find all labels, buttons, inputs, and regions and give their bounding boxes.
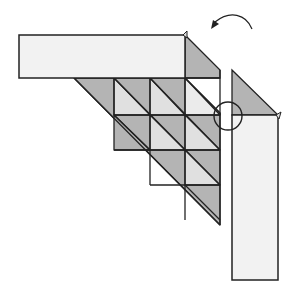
top-strip: [19, 35, 185, 78]
rotate-arrow-icon: [211, 15, 252, 29]
right-strip: [232, 115, 278, 280]
top-flap: [185, 35, 220, 78]
folding-diagram: [0, 0, 301, 300]
right-strip-group: [232, 70, 281, 280]
triangle-grid: [74, 78, 220, 225]
